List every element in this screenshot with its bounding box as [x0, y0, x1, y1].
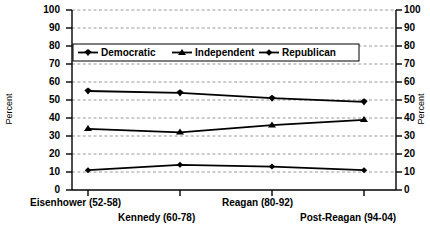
series-independent: [84, 116, 368, 135]
marker-democratic-3: [360, 98, 367, 105]
legend-label-republican[interactable]: Republican: [282, 47, 336, 58]
plot-area: [0, 0, 430, 232]
legend-label-independent[interactable]: Independent: [195, 47, 254, 58]
series-democratic: [84, 88, 367, 106]
marker-independent-0: [84, 125, 92, 131]
chart-container: Percent Percent 100 90 80 70 60 50 40 30…: [0, 0, 430, 232]
series-republican: [85, 162, 367, 173]
y-axis-right: [396, 10, 402, 190]
marker-republican-1: [177, 162, 183, 168]
y-axis-left: [66, 10, 72, 190]
marker-republican-2: [269, 164, 275, 170]
legend-label-democratic[interactable]: Democratic: [101, 47, 155, 58]
marker-democratic-1: [176, 89, 183, 96]
marker-democratic-2: [268, 95, 275, 102]
marker-democratic-0: [84, 88, 91, 95]
x-axis: [72, 190, 396, 196]
marker-independent-3: [360, 116, 368, 122]
